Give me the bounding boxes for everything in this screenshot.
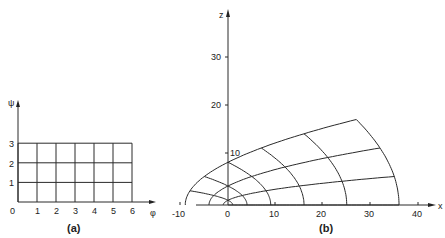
z-tick-30: 30 [211, 52, 221, 62]
psi-axis-label: ψ [8, 98, 14, 108]
y-tick-1: 1 [9, 178, 14, 188]
caption-a: (a) [67, 222, 81, 234]
x-tick-1: 1 [35, 206, 40, 216]
x-tick-6: 6 [130, 206, 135, 216]
x-axis-label: x [438, 201, 443, 211]
figure-canvas: ψ φ 0 1 2 3 4 5 6 1 2 3 (a) z x -10 0 10… [0, 0, 445, 238]
x-tick-2: 2 [54, 206, 59, 216]
x-tick-20: 20 [316, 209, 326, 219]
figure-a-grid [18, 143, 132, 202]
figure-b: z x -10 0 10 20 30 40 10 20 30 (b) [172, 9, 443, 234]
x-tick-neg10: -10 [172, 209, 185, 219]
phi-axis-label: φ [150, 208, 156, 218]
y-tick-3: 3 [9, 139, 14, 149]
x-tick-30: 30 [364, 209, 374, 219]
x-tick-4: 4 [92, 206, 97, 216]
x-tick-0: 0 [225, 209, 230, 219]
caption-b: (b) [319, 222, 333, 234]
z-axis-label: z [219, 10, 224, 20]
figure-b-mesh [185, 120, 399, 206]
z-tick-20: 20 [211, 100, 221, 110]
y-tick-2: 2 [9, 159, 14, 169]
z-tick-10: 10 [230, 148, 240, 158]
x-tick-10: 10 [269, 209, 279, 219]
x-axis-arrow-icon [428, 203, 436, 207]
figure-a: ψ φ 0 1 2 3 4 5 6 1 2 3 (a) [8, 98, 156, 234]
x-tick-40: 40 [412, 209, 422, 219]
origin-label: 0 [10, 206, 15, 216]
z-axis-arrow-icon [226, 9, 230, 17]
phi-axis-arrow-icon [149, 200, 156, 204]
x-tick-5: 5 [111, 206, 116, 216]
x-tick-3: 3 [73, 206, 78, 216]
psi-axis-arrow-icon [16, 100, 20, 107]
